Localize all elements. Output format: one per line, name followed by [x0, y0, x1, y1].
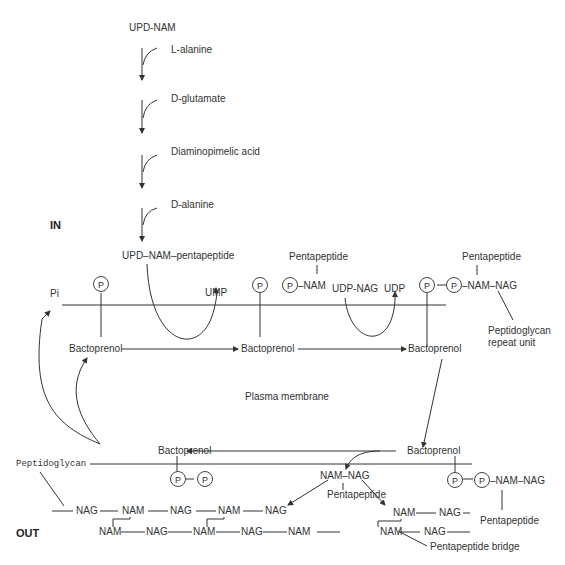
chain-bottom-nam: NAM [193, 526, 215, 538]
bactoprenol-label-4: Bactoprenol [158, 445, 211, 457]
pentapeptide-label-2: Pentapeptide [462, 251, 521, 263]
phosphate-icon: P [419, 277, 435, 293]
bactoprenol-label-2: Bactoprenol [241, 343, 294, 355]
chain-top-nag: NAG [170, 505, 192, 517]
d-alanine-label: D-alanine [171, 199, 214, 211]
new-unit-nam: NAM [393, 507, 415, 519]
phosphate-icon: P [170, 471, 186, 487]
chain-top-nag: NAG [76, 505, 98, 517]
upd-nam-label: UPD-NAM [129, 22, 176, 34]
chain-bottom-nag: NAG [241, 526, 263, 538]
bactoprenol-label-1: Bactoprenol [69, 343, 122, 355]
chain-top-nag: NAG [265, 505, 287, 517]
pentapeptide-label-1: Pentapeptide [289, 251, 348, 263]
udp-label: UDP [384, 283, 405, 295]
pentapeptide-outside-label: Pentapeptide [327, 489, 386, 501]
pi-label: Pi [50, 288, 59, 300]
l-alanine-label: L-alanine [171, 44, 212, 56]
repeat-unit-label: Peptidoglycan repeat unit [488, 325, 548, 349]
phosphate-icon: P [474, 472, 490, 488]
phosphate-icon: P [252, 277, 268, 293]
diaminopimelic-acid-label: Diaminopimelic acid [171, 146, 260, 158]
phosphate-icon: P [446, 277, 462, 293]
pentapeptide-right-label: Pentapeptide [480, 515, 539, 527]
phosphate-icon: P [197, 471, 213, 487]
chain-bottom-nam: NAM [288, 526, 310, 538]
d-glutamate-label: D-glutamate [171, 93, 225, 105]
chain-top-nam: NAM [218, 505, 240, 517]
phosphate-icon: P [93, 276, 109, 292]
nam-nag-label: –NAM–NAG [462, 280, 517, 292]
chain-bottom-nam-2: NAM [380, 526, 402, 538]
upd-nam-pentapeptide-label: UPD–NAM–pentapeptide [122, 250, 234, 262]
nam-nag-outside-label: NAM–NAG [320, 470, 369, 482]
chain-bottom-nag-2: NAG [424, 526, 446, 538]
out-region-label: OUT [16, 527, 39, 539]
chain-bottom-nam: NAM [99, 526, 121, 538]
peptidoglycan-label: Peptidoglycan [16, 458, 86, 470]
in-region-label: IN [50, 219, 61, 231]
pentapeptide-bridge-label: Pentapeptide bridge [430, 541, 520, 553]
plasma-membrane-label: Plasma membrane [245, 391, 329, 403]
phosphate-icon: P [282, 277, 298, 293]
chain-top-nam: NAM [122, 505, 144, 517]
bactoprenol-label-5: Bactoprenol [407, 445, 460, 457]
ump-label: UMP [205, 287, 227, 299]
udp-nag-label: UDP-NAG [332, 283, 378, 295]
chain-bottom-nag: NAG [146, 526, 168, 538]
bactoprenol-label-3: Bactoprenol [408, 343, 461, 355]
phosphate-icon: P [447, 472, 463, 488]
nam-nag-right-label: –NAM–NAG [490, 475, 545, 487]
nam-label: –NAM [298, 280, 326, 292]
new-unit-nag: NAG [439, 507, 461, 519]
